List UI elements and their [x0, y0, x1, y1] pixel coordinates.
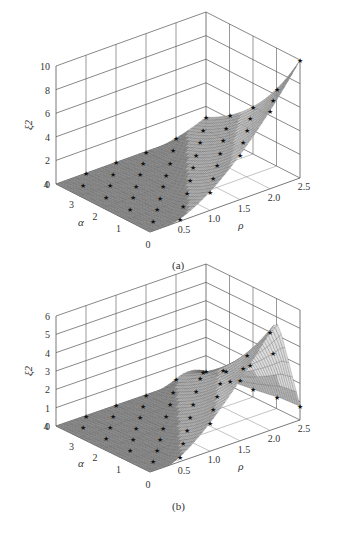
svg-text:★: ★ [267, 329, 273, 337]
svg-text:★: ★ [270, 97, 276, 105]
figure-b: ★★★★★★★★★★★★★★★★★★★★★★★★★★★★★★★★★★★★★★★★… [0, 262, 337, 533]
svg-text:★: ★ [177, 216, 183, 224]
svg-text:★: ★ [227, 378, 233, 386]
svg-text:★: ★ [223, 125, 229, 133]
svg-text:★: ★ [187, 177, 193, 185]
svg-text:★: ★ [203, 114, 209, 122]
svg-text:★: ★ [177, 454, 183, 462]
svg-text:1: 1 [116, 223, 121, 234]
svg-text:★: ★ [214, 393, 220, 401]
svg-text:2.5: 2.5 [298, 423, 311, 434]
svg-text:★: ★ [137, 171, 143, 179]
svg-text:2.0: 2.0 [268, 433, 281, 444]
svg-text:★: ★ [180, 440, 186, 448]
svg-text:2: 2 [45, 384, 50, 395]
svg-text:6: 6 [45, 108, 50, 119]
svg-text:★: ★ [163, 413, 169, 421]
svg-text:★: ★ [210, 406, 216, 414]
svg-text:★: ★ [130, 194, 136, 202]
svg-text:★: ★ [133, 425, 139, 433]
svg-text:5: 5 [45, 329, 50, 340]
svg-text:★: ★ [240, 139, 246, 147]
svg-text:1.0: 1.0 [208, 454, 221, 465]
svg-text:★: ★ [160, 425, 166, 433]
svg-text:★: ★ [180, 203, 186, 211]
svg-text:★: ★ [150, 458, 156, 466]
svg-text:4: 4 [44, 179, 49, 190]
svg-text:★: ★ [240, 365, 246, 373]
svg-text:★: ★ [217, 380, 223, 388]
svg-text:1: 1 [45, 403, 50, 414]
svg-text:★: ★ [150, 218, 156, 226]
svg-text:10: 10 [40, 61, 50, 72]
x-axis-label: ρ [237, 219, 243, 231]
svg-text:2: 2 [93, 211, 98, 222]
svg-text:★: ★ [127, 447, 133, 455]
y-axis-label: α [78, 457, 84, 469]
svg-text:★: ★ [250, 386, 256, 394]
svg-text:★: ★ [127, 206, 133, 214]
svg-text:★: ★ [113, 159, 119, 167]
svg-text:★: ★ [103, 194, 109, 202]
svg-text:★: ★ [154, 206, 160, 214]
svg-text:★: ★ [244, 352, 250, 360]
svg-text:1.5: 1.5 [238, 203, 251, 214]
svg-text:★: ★ [270, 350, 276, 358]
svg-text:0.5: 0.5 [178, 465, 191, 476]
svg-text:★: ★ [237, 152, 243, 160]
z-axis-label: ξ2 [22, 119, 35, 130]
svg-text:★: ★ [297, 403, 303, 411]
svg-text:★: ★ [247, 362, 253, 370]
svg-text:★: ★ [173, 135, 179, 143]
svg-text:★: ★ [207, 420, 213, 428]
svg-text:2.5: 2.5 [298, 181, 311, 192]
surface-plot-a: ★★★★★★★★★★★★★★★★★★★★★★★★★★★★★★★★★★★★★★★★… [0, 0, 337, 275]
svg-text:★: ★ [143, 392, 149, 400]
figure-a: ★★★★★★★★★★★★★★★★★★★★★★★★★★★★★★★★★★★★★★★★… [0, 0, 337, 275]
svg-text:★: ★ [157, 195, 163, 203]
svg-text:★: ★ [184, 427, 190, 435]
svg-text:★: ★ [133, 183, 139, 191]
svg-text:★: ★ [113, 402, 119, 410]
svg-text:★: ★ [140, 403, 146, 411]
svg-text:★: ★ [207, 189, 213, 197]
svg-text:4: 4 [45, 132, 50, 143]
svg-text:2: 2 [93, 452, 98, 463]
svg-text:★: ★ [83, 170, 89, 178]
svg-text:★: ★ [187, 414, 193, 422]
svg-text:2: 2 [45, 155, 50, 166]
svg-text:★: ★ [83, 413, 89, 421]
svg-text:★: ★ [137, 414, 143, 422]
svg-text:3: 3 [45, 366, 50, 377]
svg-text:★: ★ [220, 137, 226, 145]
svg-text:★: ★ [157, 436, 163, 444]
svg-text:★: ★ [214, 162, 220, 170]
svg-text:★: ★ [210, 175, 216, 183]
svg-text:1.5: 1.5 [238, 444, 251, 455]
surface-mesh [56, 60, 300, 232]
svg-text:★: ★ [110, 413, 116, 421]
svg-text:★: ★ [237, 377, 243, 385]
svg-text:★: ★ [227, 112, 233, 120]
svg-text:★: ★ [107, 424, 113, 432]
svg-text:★: ★ [200, 127, 206, 135]
svg-text:★: ★ [203, 368, 209, 376]
svg-text:★: ★ [247, 115, 253, 123]
svg-text:★: ★ [173, 376, 179, 384]
x-axis-label: ρ [237, 460, 243, 472]
svg-text:★: ★ [143, 149, 149, 157]
svg-text:★: ★ [170, 147, 176, 155]
caption-b: (b) [172, 500, 185, 512]
svg-text:★: ★ [197, 139, 203, 147]
svg-text:★: ★ [274, 394, 280, 402]
svg-text:★: ★ [267, 108, 273, 116]
svg-text:★: ★ [190, 401, 196, 409]
svg-text:★: ★ [217, 150, 223, 158]
svg-text:★: ★ [250, 104, 256, 112]
svg-text:★: ★ [140, 160, 146, 168]
y-axis-label: α [78, 216, 84, 228]
svg-text:★: ★ [190, 164, 196, 172]
svg-text:★: ★ [80, 182, 86, 190]
svg-text:★: ★ [193, 388, 199, 396]
svg-text:2.0: 2.0 [268, 192, 281, 203]
